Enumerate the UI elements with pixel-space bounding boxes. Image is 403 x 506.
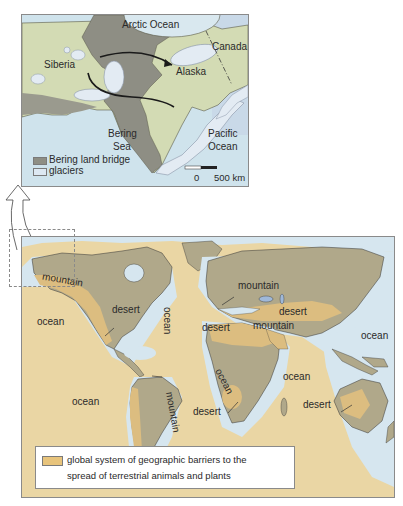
label-pacific-ocean-1: Pacific	[208, 129, 237, 139]
label-pacific-ocean-2: Ocean	[208, 142, 237, 152]
legend-label-glaciers: glaciers	[49, 166, 83, 176]
inset-region-indicator	[9, 229, 75, 287]
label-desert-kalahari: desert	[193, 407, 221, 417]
scale-end-label: 500 km	[214, 173, 245, 183]
label-ocean-atlantic: ocean	[162, 307, 172, 334]
legend-swatch-barriers	[42, 456, 63, 466]
legend-label-land-bridge: Bering land bridge	[49, 155, 130, 165]
scale-bar-white	[185, 166, 201, 169]
label-desert-north-america: desert	[112, 305, 140, 315]
label-mountain-europe: mountain	[238, 281, 279, 291]
scale-bar-black	[201, 166, 217, 169]
label-bering-sea-1: Bering	[108, 129, 137, 139]
world-map: mountain ocean desert ocean mountain des…	[21, 236, 395, 498]
label-ocean-west-pacific: ocean	[361, 331, 388, 341]
scale-start-label: 0	[194, 173, 199, 183]
bering-inset-map: Arctic Ocean Canada Siberia Alaska Berin…	[21, 14, 249, 187]
legend-swatch-land-bridge	[33, 157, 47, 165]
label-ocean-south-pacific: ocean	[72, 397, 99, 407]
label-bering-sea-2: Sea	[113, 142, 131, 152]
label-desert-asia: desert	[279, 307, 307, 317]
label-desert-sahara: desert	[202, 323, 230, 333]
label-siberia: Siberia	[44, 60, 75, 70]
label-alaska: Alaska	[176, 67, 206, 77]
legend-swatch-glaciers	[33, 168, 47, 176]
label-ocean-indian: ocean	[283, 372, 310, 382]
legend-text-line1: global system of geographic barriers to …	[67, 455, 247, 465]
legend-text-line2: spread of terrestrial animals and plants	[67, 471, 231, 481]
label-ocean-north-pacific: ocean	[37, 317, 64, 327]
label-desert-australia: desert	[303, 400, 331, 410]
label-mountain-asia: mountain	[253, 321, 294, 331]
world-map-legend: global system of geographic barriers to …	[35, 446, 295, 489]
label-canada: Canada	[212, 42, 247, 52]
label-arctic-ocean: Arctic Ocean	[122, 20, 179, 30]
